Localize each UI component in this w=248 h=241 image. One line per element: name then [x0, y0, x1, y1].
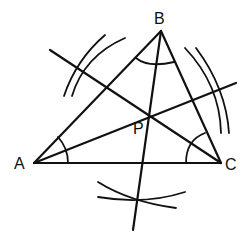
label-b: B [154, 10, 165, 27]
label-c: C [225, 156, 237, 173]
arc-upper-left-1 [64, 35, 105, 96]
incenter-diagram: A B C P [0, 0, 248, 241]
angle-mark-b [136, 58, 174, 64]
angle-mark-a [58, 137, 68, 163]
angle-marks [58, 58, 205, 163]
arc-upper-left-2 [72, 38, 125, 96]
construction-arcs [64, 35, 229, 208]
label-p: P [133, 120, 144, 137]
arc-bottom-2 [98, 192, 185, 200]
angle-mark-c [186, 133, 205, 163]
label-a: A [14, 155, 25, 172]
